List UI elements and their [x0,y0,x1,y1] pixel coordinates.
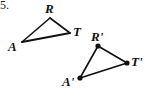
preimage-triangle-ART [22,18,70,42]
vertex-label-R-prime: R' [91,30,103,43]
vertex-label-T: T [73,25,81,38]
vertex-dot-A-prime [77,75,82,80]
segment-R-prime-T-prime [98,46,127,63]
segment-TA [22,33,70,42]
vertex-label-T-prime: T' [131,55,143,68]
image-triangle-A-prime-R-prime-T-prime [77,43,129,80]
vertex-dot-T-prime [124,60,129,65]
vertex-label-R: R [45,2,54,15]
vertex-dot-R-prime [95,43,100,48]
segment-RT [50,18,70,33]
geometry-figure: 5. A R T A' R' T' [0,0,145,102]
vertex-label-A: A [8,40,17,53]
vertex-label-A-prime: A' [62,75,74,88]
